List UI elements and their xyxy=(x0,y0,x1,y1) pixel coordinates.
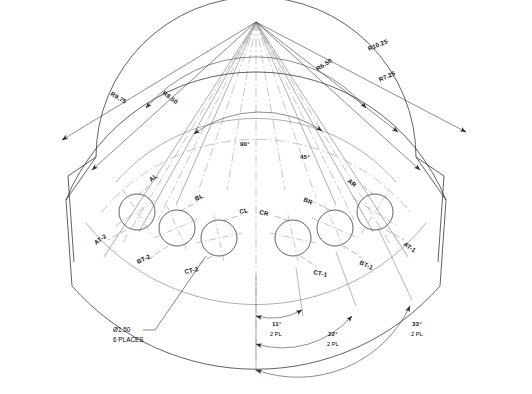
hole-label-bt2: BT-2 xyxy=(135,252,151,264)
hole-label-cr: CR xyxy=(259,208,270,217)
angle-label-90: 90° xyxy=(240,140,250,147)
radius-dimension-right xyxy=(256,22,466,170)
hole-label-br: BR xyxy=(303,196,315,206)
hole-label-at2: AT-2 xyxy=(92,232,107,246)
hole-al-at2 xyxy=(115,190,159,234)
hole-label-ar: AR xyxy=(346,177,358,188)
hole-label-bt1: BT-1 xyxy=(359,259,375,271)
technical-drawing-svg: AL BL CL CR BR AR AT-2 BT-2 CT-2 CT-1 BT… xyxy=(0,0,532,394)
radius-label-r650: R6.50 xyxy=(315,56,334,71)
cad-drawing-canvas: AL BL CL CR BR AR AT-2 BT-2 CT-2 CT-1 BT… xyxy=(0,0,532,394)
angle-places-11: 2 PL xyxy=(270,331,282,337)
hole-cl-ct2 xyxy=(196,215,242,261)
angle-label-22: 22° xyxy=(328,330,338,337)
angle-label-33: 33° xyxy=(412,320,422,327)
radius-label-r850: R8.50 xyxy=(161,89,179,105)
hole-ar-at1 xyxy=(353,190,397,234)
angle-label-11: 11° xyxy=(272,320,282,327)
hole-label-bl: BL xyxy=(193,192,204,202)
radius-label-r975: R9.75 xyxy=(109,90,128,105)
hole-lower-label-group: AT-2 BT-2 CT-2 CT-1 BT-1 AT-1 xyxy=(92,232,417,278)
angle-label-45: 45° xyxy=(300,153,310,160)
radius-label-r725: R7.25 xyxy=(377,69,396,83)
radius-label-r1025: R10.25 xyxy=(367,37,389,52)
hole-label-ct2: CT-2 xyxy=(184,265,200,275)
hole-label-al: AL xyxy=(147,172,158,183)
angle-places-33: 2 PL xyxy=(411,331,423,337)
hole-label-ct1: CT-1 xyxy=(313,268,329,278)
hole-bl-bt2 xyxy=(154,206,200,250)
diameter-value-label: Ø1.50 xyxy=(113,326,131,333)
hole-label-cl: CL xyxy=(239,206,249,215)
diameter-quantity-label: 6 PLACES xyxy=(113,336,144,343)
hole-br-bt1 xyxy=(312,206,358,250)
angle-places-22: 2 PL xyxy=(327,341,339,347)
hole-cr-ct1 xyxy=(270,215,316,261)
